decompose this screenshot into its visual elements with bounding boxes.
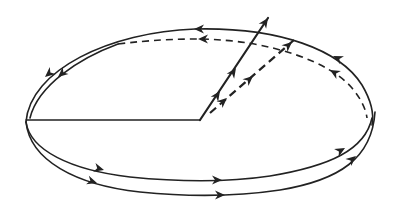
orbit-diagram: Precessing orbit with rotating vector bbox=[0, 0, 395, 210]
orbit-lower-outer bbox=[26, 112, 375, 195]
orbit-upper-solid bbox=[26, 29, 373, 125]
arrowhead-lower-outer-right bbox=[345, 153, 358, 166]
diagram-canvas bbox=[0, 0, 395, 210]
vector-solid bbox=[200, 18, 268, 120]
arrowhead-vector-solid-tip bbox=[259, 15, 272, 28]
orbit-upper-dashed bbox=[118, 39, 367, 118]
orbit-upper-solid-inner bbox=[30, 44, 118, 118]
orbit-lower-inner bbox=[26, 118, 372, 181]
